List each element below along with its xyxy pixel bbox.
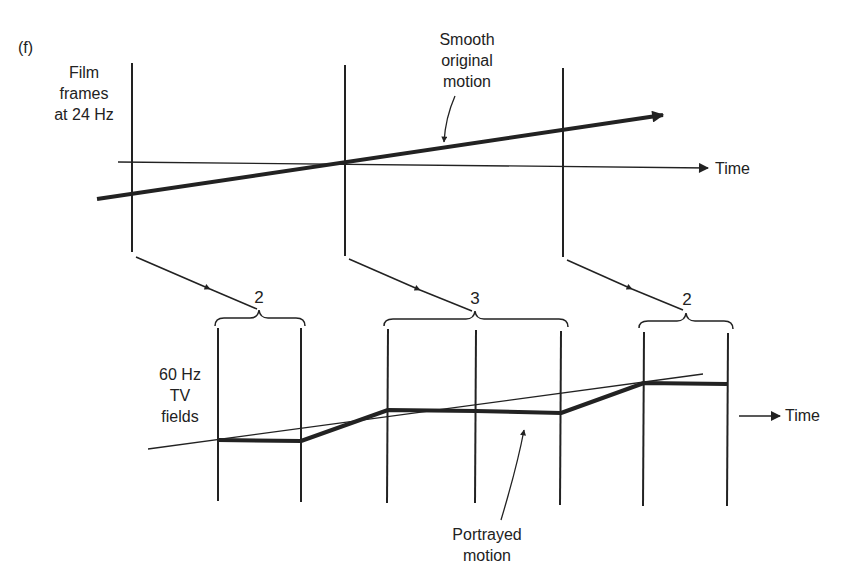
mapping-arrow-3-head bbox=[567, 260, 632, 289]
film-time-axis-arrow bbox=[118, 162, 708, 168]
brace-group-2 bbox=[384, 311, 568, 327]
tv-fields-label-line-2: TV bbox=[150, 385, 210, 406]
tv-field-4 bbox=[475, 330, 476, 503]
brace-group-3 bbox=[639, 313, 733, 329]
smooth-motion-arrow bbox=[97, 115, 663, 199]
smooth-motion-label-line-3: motion bbox=[424, 71, 510, 92]
tv-time-label: Time bbox=[785, 405, 820, 426]
count-label-3: 2 bbox=[680, 289, 694, 310]
mapping-arrow-1-tail bbox=[210, 289, 257, 309]
brace-group-1 bbox=[215, 310, 305, 326]
portrayed-motion-line bbox=[218, 383, 727, 441]
tv-field-5 bbox=[560, 331, 561, 505]
tv-fields-label: 60 Hz TV fields bbox=[150, 364, 210, 427]
tv-fields-label-line-3: fields bbox=[150, 406, 210, 427]
portrayed-motion-label-line-2: motion bbox=[432, 545, 542, 566]
mapping-arrow-3-tail bbox=[632, 289, 683, 310]
braces bbox=[215, 310, 733, 329]
smooth-motion-label: Smooth original motion bbox=[424, 29, 510, 92]
mapping-arrows bbox=[136, 257, 683, 311]
count-label-2: 3 bbox=[468, 288, 482, 309]
tv-fields-label-line-1: 60 Hz bbox=[150, 364, 210, 385]
film-frames-label: Film frames at 24 Hz bbox=[42, 62, 126, 125]
film-frames-label-line-1: Film bbox=[42, 62, 126, 83]
film-time-label: Time bbox=[715, 158, 750, 179]
portrayed-motion-pointer bbox=[501, 430, 524, 520]
smooth-motion-pointer bbox=[444, 96, 455, 142]
pulldown-diagram bbox=[0, 0, 844, 576]
portrayed-motion-label: Portrayed motion bbox=[432, 524, 542, 566]
mapping-arrow-1-head bbox=[136, 257, 210, 289]
tv-field-6 bbox=[643, 332, 644, 506]
film-frames-label-line-3: at 24 Hz bbox=[42, 104, 126, 125]
panel-label: (f) bbox=[18, 37, 33, 58]
mapping-arrow-2-tail bbox=[420, 290, 472, 311]
smooth-motion-label-line-2: original bbox=[424, 50, 510, 71]
film-frames-label-line-2: frames bbox=[42, 83, 126, 104]
portrayed-motion-label-line-1: Portrayed bbox=[432, 524, 542, 545]
tv-field-lines bbox=[218, 328, 728, 506]
count-label-1: 2 bbox=[252, 287, 266, 308]
smooth-motion-label-line-1: Smooth bbox=[424, 29, 510, 50]
mapping-arrow-2-head bbox=[349, 259, 420, 290]
tv-field-7 bbox=[727, 333, 728, 506]
